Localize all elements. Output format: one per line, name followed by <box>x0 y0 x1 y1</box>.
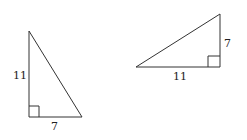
horizontal-leg-label: 11 <box>173 70 187 83</box>
vertical-leg-label: 7 <box>224 37 231 50</box>
right-angle-marker <box>208 56 220 67</box>
right-triangle: 7 11 <box>136 14 231 83</box>
triangle-shape <box>136 14 220 67</box>
right-angle-marker <box>29 106 39 117</box>
triangle-shape <box>29 31 82 117</box>
left-triangle: 11 7 <box>13 31 82 133</box>
vertical-leg-label: 11 <box>13 69 27 82</box>
diagram-canvas: 11 7 7 11 <box>0 0 247 140</box>
horizontal-leg-label: 7 <box>51 120 58 133</box>
